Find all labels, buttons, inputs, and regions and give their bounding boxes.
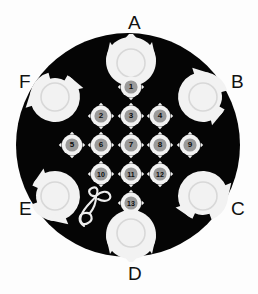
numbered-marker-label-2: 2 [91, 106, 111, 126]
numbered-marker-label-6: 6 [91, 135, 111, 155]
numbered-marker-label-11: 11 [121, 164, 141, 184]
corner-label-b: B [231, 72, 244, 91]
corner-label-a: A [128, 13, 141, 32]
corner-label-e: E [19, 199, 32, 218]
numbered-marker-label-3: 3 [121, 106, 141, 126]
numbered-marker-label-9: 9 [180, 135, 200, 155]
numbered-marker-label-10: 10 [91, 164, 111, 184]
numbered-marker-label-7: 7 [121, 135, 141, 155]
numbered-marker-label-5: 5 [62, 135, 82, 155]
fiducial-disc-scene: A B C D E F 12345678910111213 [0, 0, 258, 294]
corner-label-d: D [128, 264, 142, 283]
numbered-marker-label-12: 12 [150, 164, 170, 184]
numbered-marker-label-13: 13 [121, 193, 141, 213]
numbered-marker-label-1: 1 [121, 77, 141, 97]
corner-label-f: F [19, 72, 31, 91]
numbered-marker-label-8: 8 [150, 135, 170, 155]
corner-label-c: C [231, 199, 245, 218]
numbered-marker-label-4: 4 [150, 106, 170, 126]
